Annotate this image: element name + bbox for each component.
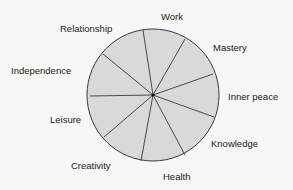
segment-label-health: Health xyxy=(163,172,190,182)
segment-label-mastery: Mastery xyxy=(213,43,247,53)
segment-label-work: Work xyxy=(161,12,183,22)
wheel-center-dot xyxy=(152,94,155,97)
segment-label-independence: Independence xyxy=(11,66,71,76)
segment-label-inner-peace: Inner peace xyxy=(228,92,278,102)
segment-label-relationship: Relationship xyxy=(60,24,112,34)
segment-label-knowledge: Knowledge xyxy=(211,139,258,149)
segment-label-creativity: Creativity xyxy=(71,161,111,171)
segment-label-leisure: Leisure xyxy=(50,115,81,125)
